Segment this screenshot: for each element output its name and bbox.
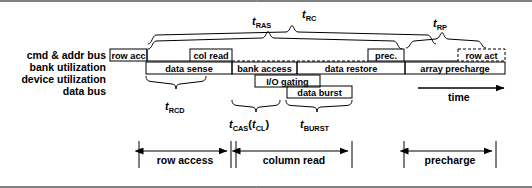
timing-diagram-figure: cmd & addr bus bank utilization device u… xyxy=(0,0,532,188)
data-box-label-data-burst: data burst xyxy=(287,88,352,98)
row-label-cmd-addr-bus: cmd & addr bus xyxy=(6,50,106,61)
cmd-box-label-col-read: col read xyxy=(190,51,232,61)
time-axis-label: time xyxy=(448,92,470,103)
phase-label-column-read: column read xyxy=(236,155,352,166)
cmd-box-label-row-acc: row acc xyxy=(110,51,147,61)
timing-label-t-rc: tRC xyxy=(302,9,316,24)
timing-label-t-cas: tCAS(tCL) xyxy=(229,119,269,134)
phase-label-row-access: row access xyxy=(139,155,231,166)
timing-label-t-burst: tBURST xyxy=(300,119,329,134)
bank-box-label-array-precharge: array precharge xyxy=(405,64,505,74)
bank-box-label-data-restore: data restore xyxy=(297,64,405,74)
brace-t-cas xyxy=(232,100,280,112)
cmd-box-label-row-act: row act xyxy=(458,51,505,61)
bank-box-label-data-sense: data sense xyxy=(146,64,232,74)
timing-label-t-rp: tRP xyxy=(433,18,447,33)
device-box-label-io-gating: I/O gating xyxy=(255,77,320,87)
bank-box-label-bank-access: bank access xyxy=(232,64,297,74)
brace-t-burst xyxy=(286,100,352,112)
row-label-bank-utilization: bank utilization xyxy=(6,62,106,73)
row-label-data-bus: data bus xyxy=(6,86,106,97)
cmd-addr-bus-boxes xyxy=(110,49,505,61)
cmd-box-label-prec: prec. xyxy=(368,51,404,61)
phase-label-precharge: precharge xyxy=(404,155,496,166)
timing-label-t-rcd: tRCD xyxy=(165,101,185,116)
brace-t-rcd xyxy=(146,76,206,89)
row-label-device-utilization: device utilization xyxy=(6,74,106,85)
timing-label-t-ras: tRAS xyxy=(252,16,271,31)
